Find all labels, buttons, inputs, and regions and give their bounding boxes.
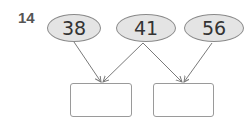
number-oval-38: 38 xyxy=(47,14,101,42)
number-oval-41: 41 xyxy=(116,14,176,42)
number-oval-56: 56 xyxy=(184,14,244,42)
number-label: 56 xyxy=(202,17,226,39)
number-label: 38 xyxy=(62,17,86,39)
answer-box-2[interactable] xyxy=(153,83,214,117)
number-label: 41 xyxy=(134,17,158,39)
answer-box-1[interactable] xyxy=(70,83,132,117)
